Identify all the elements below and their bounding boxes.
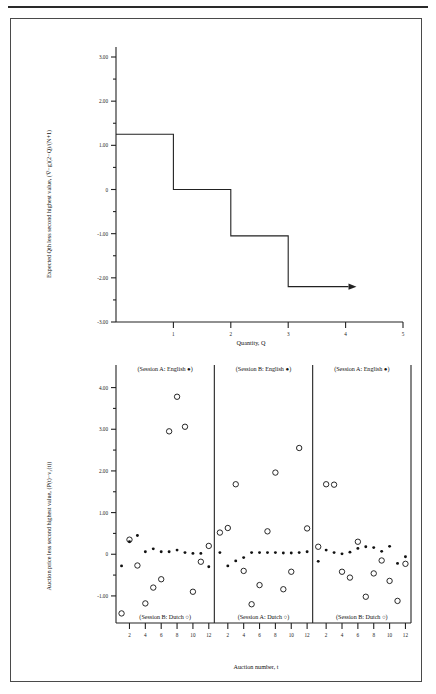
bottom-chart-point-dutch	[339, 569, 344, 574]
bottom-chart-point-dutch	[225, 525, 230, 530]
bottom-chart-x-tick-label: 8	[372, 632, 375, 638]
bottom-chart-x-tick-label: 4	[341, 632, 344, 638]
bottom-chart-point-dutch	[241, 568, 246, 573]
bottom-chart-point-dutch	[331, 482, 336, 487]
top-chart-step-line	[116, 134, 348, 286]
bottom-chart-panel-bottom-label: (Session B: Dutch ○)	[139, 614, 191, 621]
bottom-chart-point-dutch	[304, 526, 309, 531]
bottom-chart-point-dutch	[387, 578, 392, 583]
bottom-chart-point-english	[325, 549, 328, 552]
bottom-chart-y-axis-label: Auction price less second highest value,…	[45, 462, 53, 591]
bottom-chart-x-tick-label: 10	[190, 632, 196, 638]
bottom-chart-y-tick-label: 0	[105, 551, 108, 557]
bottom-chart-point-dutch	[395, 598, 400, 603]
top-chart-y-tick-label: -3.00	[97, 319, 108, 325]
bottom-chart-point-english	[152, 547, 155, 550]
bottom-chart-x-tick-label: 2	[227, 632, 230, 638]
bottom-chart-panel-top-label: (Session A: English ●)	[334, 366, 389, 373]
top-chart-x-axis-label: Quantity, Q	[237, 339, 266, 346]
bottom-chart-point-dutch	[347, 575, 352, 580]
bottom-chart-point-english	[120, 564, 123, 567]
top-chart-y-tick-label: 1.00	[99, 142, 108, 148]
bottom-chart-point-dutch	[217, 530, 222, 535]
bottom-chart-y-tick-label: 1.00	[99, 510, 108, 516]
bottom-chart-x-tick-label: 4	[144, 632, 147, 638]
bottom-chart-x-tick-label: 6	[160, 632, 163, 638]
bottom-chart-point-english	[388, 545, 391, 548]
bottom-chart-point-english	[199, 552, 202, 555]
bottom-chart-point-english	[242, 556, 245, 559]
bottom-chart: 4.003.002.001.000-1.00(Session A: Englis…	[11, 351, 423, 681]
bottom-chart-point-english	[404, 555, 407, 558]
bottom-chart-point-dutch	[119, 611, 124, 616]
bottom-chart-point-english	[234, 559, 237, 562]
bottom-chart-x-tick-label: 6	[357, 632, 360, 638]
bottom-chart-point-english	[136, 534, 139, 537]
top-chart-x-tick-label: 1	[172, 331, 175, 337]
bottom-chart-point-dutch	[257, 582, 262, 587]
bottom-chart-x-tick-label: 10	[387, 632, 393, 638]
bottom-chart-point-english	[298, 551, 301, 554]
bottom-chart-x-tick-label: 12	[403, 632, 409, 638]
bottom-chart-point-dutch	[159, 577, 164, 582]
figure-frame: 3.002.001.000-1.00-2.00-3.0012345 Expect…	[10, 18, 422, 682]
bottom-chart-point-english	[290, 552, 293, 555]
bottom-chart-point-english	[317, 560, 320, 563]
bottom-chart-point-english	[380, 550, 383, 553]
bottom-chart-point-english	[184, 551, 187, 554]
bottom-chart-point-english	[396, 562, 399, 565]
bottom-chart-y-tick-label: 3.00	[99, 426, 108, 432]
bottom-chart-point-english	[191, 552, 194, 555]
bottom-chart-point-dutch	[166, 429, 171, 434]
bottom-chart-x-tick-label: 12	[206, 632, 212, 638]
bottom-chart-point-dutch	[233, 482, 238, 487]
bottom-chart-point-dutch	[323, 482, 328, 487]
bottom-chart-x-tick-label: 4	[242, 632, 245, 638]
bottom-chart-point-dutch	[403, 561, 408, 566]
bottom-chart-point-english	[168, 550, 171, 553]
bottom-chart-point-dutch	[174, 394, 179, 399]
bottom-chart-panel-top-label: (Session B: English ●)	[236, 366, 291, 373]
bottom-chart-point-english	[226, 564, 229, 567]
bottom-chart-x-tick-label: 8	[274, 632, 277, 638]
bottom-chart-point-dutch	[190, 589, 195, 594]
top-chart-y-tick-label: -1.00	[97, 231, 108, 237]
bottom-chart-point-dutch	[273, 470, 278, 475]
bottom-chart-point-english	[306, 550, 309, 553]
bottom-chart-point-dutch	[249, 602, 254, 607]
bottom-chart-point-dutch	[371, 571, 376, 576]
bottom-chart-point-dutch	[206, 543, 211, 548]
bottom-chart-point-english	[274, 551, 277, 554]
bottom-chart-point-dutch	[198, 559, 203, 564]
bottom-chart-panel-top-label: (Session A: English ●)	[138, 366, 193, 373]
bottom-chart-point-dutch	[296, 445, 301, 450]
bottom-chart-point-dutch	[265, 529, 270, 534]
bottom-chart-point-english	[282, 552, 285, 555]
bottom-chart-point-english	[372, 546, 375, 549]
bottom-chart-x-tick-label: 2	[325, 632, 328, 638]
bottom-chart-point-english	[356, 547, 359, 550]
bottom-chart-panel-bottom-label: (Session A: Dutch ○)	[238, 614, 290, 621]
top-chart-y-tick-label: -2.00	[97, 275, 108, 281]
top-rule-divider	[8, 6, 428, 8]
bottom-chart-point-english	[176, 549, 179, 552]
top-chart-arrow-head	[348, 283, 356, 289]
bottom-chart-x-tick-label: 8	[176, 632, 179, 638]
bottom-chart-point-dutch	[355, 539, 360, 544]
bottom-chart-y-tick-label: 2.00	[99, 468, 108, 474]
bottom-chart-y-tick-label: 4.00	[99, 385, 108, 391]
top-chart: 3.002.001.000-1.00-2.00-3.0012345 Expect…	[11, 19, 423, 351]
bottom-chart-x-tick-label: 2	[128, 632, 131, 638]
bottom-chart-point-dutch	[316, 544, 321, 549]
top-chart-x-tick-label: 5	[402, 331, 405, 337]
bottom-chart-point-dutch	[182, 424, 187, 429]
bottom-chart-y-tick-label: -1.00	[97, 593, 108, 599]
top-chart-x-tick-label: 3	[287, 331, 290, 337]
bottom-chart-panel-bottom-label: (Session B: Dutch ○)	[336, 614, 388, 621]
bottom-chart-point-english	[258, 551, 261, 554]
bottom-chart-point-dutch	[289, 569, 294, 574]
bottom-chart-point-english	[144, 550, 147, 553]
bottom-chart-point-dutch	[363, 594, 368, 599]
bottom-chart-x-tick-label: 10	[289, 632, 295, 638]
bottom-chart-point-dutch	[143, 601, 148, 606]
